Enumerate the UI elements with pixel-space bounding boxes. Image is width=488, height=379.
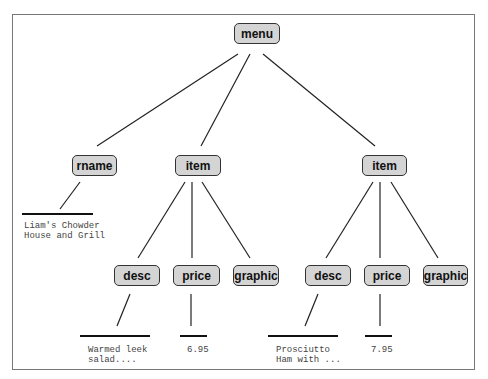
leaf-text-rname: Liam's Chowder House and Grill [24, 221, 105, 241]
node-item1: item [175, 155, 221, 176]
leaf-text-price1: 6.95 [187, 345, 209, 355]
node-desc1: desc [114, 265, 160, 286]
node-price1: price [173, 265, 220, 286]
edge-line [326, 182, 373, 258]
edge-line [391, 182, 438, 258]
edge-line [201, 54, 250, 146]
edge-line [202, 182, 250, 258]
edge-line [305, 294, 318, 326]
node-graphic2: graphic [423, 265, 468, 286]
edge-line [60, 182, 80, 209]
edge-line [263, 54, 375, 146]
leaf-text-price2: 7.95 [371, 345, 393, 355]
edge-line [138, 182, 185, 258]
node-graphic1: graphic [233, 265, 279, 286]
node-rname: rname [72, 155, 117, 176]
node-item2: item [362, 155, 407, 176]
tree-edges [0, 0, 488, 379]
leaf-text-desc1: Warmed leek salad.... [88, 345, 147, 365]
node-desc2: desc [305, 265, 351, 286]
edge-line [97, 54, 238, 146]
node-menu: menu [234, 23, 280, 44]
leaf-text-desc2: Prosciutto Ham with ... [276, 345, 341, 365]
edge-line [117, 294, 130, 326]
node-price2: price [364, 265, 410, 286]
